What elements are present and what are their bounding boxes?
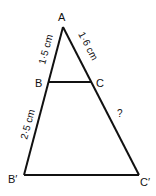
vertex-label-c: C <box>96 77 104 89</box>
vertex-label-a: A <box>58 11 66 23</box>
triangle-diagram: A B C B′ C′ 1·5 cm 1·6 cm 2·5 cm ? <box>0 0 156 196</box>
side-ac-prime <box>63 27 139 175</box>
vertex-label-b-prime: B′ <box>8 173 17 185</box>
measure-cc-prime: ? <box>117 108 123 119</box>
measure-ac: 1·6 cm <box>76 30 100 62</box>
vertex-label-b: B <box>35 77 42 89</box>
measure-ab: 1·5 cm <box>36 33 55 65</box>
vertex-label-c-prime: C′ <box>140 176 150 188</box>
